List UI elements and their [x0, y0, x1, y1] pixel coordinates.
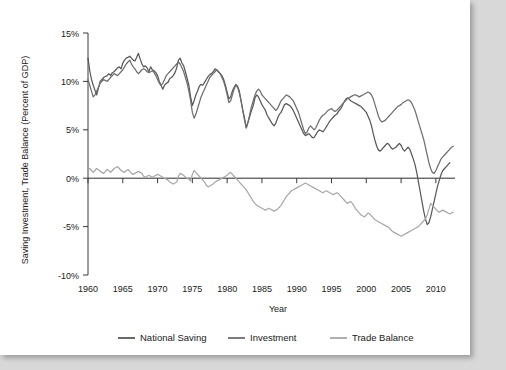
chart-figure: Saving Investment, Trade Balance (Percen…	[0, 0, 470, 355]
plot-area: -10%-5%0%5%10%15%19601965197019751980198…	[58, 29, 455, 295]
x-tick-label: 1960	[78, 284, 98, 294]
y-tick-label: 5%	[66, 125, 79, 135]
series-line-investment	[88, 60, 453, 173]
chart-legend: National SavingInvestmentTrade Balance	[118, 332, 413, 343]
y-axis-title-text: Saving Investment, Trade Balance (Percen…	[20, 56, 30, 265]
x-tick-label: 1965	[113, 284, 133, 294]
series-line-trade-balance	[88, 167, 453, 237]
y-tick-label: 15%	[61, 29, 79, 39]
y-tick-label: -5%	[63, 222, 79, 232]
legend-label-national-saving: National Saving	[140, 332, 207, 343]
x-tick-label: 1985	[252, 284, 272, 294]
x-tick-label: 1980	[217, 284, 237, 294]
x-axis-title-text: Year	[269, 304, 287, 314]
y-axis-title: Saving Investment, Trade Balance (Percen…	[20, 56, 30, 265]
x-tick-label: 2010	[426, 284, 446, 294]
y-tick-label: 10%	[61, 77, 79, 87]
x-tick-label: 1995	[321, 284, 341, 294]
x-tick-label: 2005	[391, 284, 411, 294]
x-tick-label: 1970	[148, 284, 168, 294]
x-tick-label: 1990	[287, 284, 307, 294]
x-tick-label: 2000	[356, 284, 376, 294]
y-tick-label: 0%	[66, 174, 79, 184]
series-line-national-saving	[88, 53, 450, 224]
figure-card: Saving Investment, Trade Balance (Percen…	[0, 0, 470, 355]
y-tick-label: -10%	[58, 271, 79, 281]
page-root: Saving Investment, Trade Balance (Percen…	[0, 0, 506, 370]
legend-label-trade-balance: Trade Balance	[352, 332, 413, 343]
legend-label-investment: Investment	[250, 332, 297, 343]
x-tick-label: 1975	[182, 284, 202, 294]
